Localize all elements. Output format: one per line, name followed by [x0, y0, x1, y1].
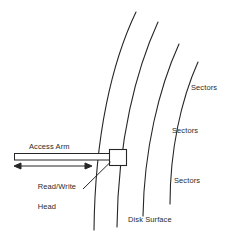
label-read-write-head: Read/Write Head: [29, 172, 76, 222]
label-read-write-head-line1: Read/Write: [38, 182, 76, 191]
label-sectors-outer: Sectors: [191, 83, 217, 93]
access-arm-bar: [15, 154, 114, 161]
label-access-arm: Access Arm: [29, 142, 70, 152]
label-disk-surface: Disk Surface: [128, 215, 172, 225]
label-read-write-head-line2: Head: [38, 202, 56, 211]
disk-diagram-canvas: Access Arm Read/Write Head Sectors Secto…: [0, 0, 226, 235]
label-sectors-inner: Sectors: [174, 176, 200, 186]
track-arc-1: [94, 12, 136, 230]
label-sectors-middle: Sectors: [172, 126, 198, 136]
read-write-head-block: [110, 150, 127, 166]
track-arc-2: [117, 22, 158, 227]
motion-arrow: [14, 163, 92, 169]
